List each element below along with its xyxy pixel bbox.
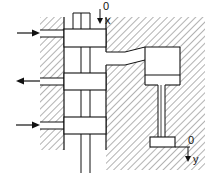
spool-origin-label: 0: [103, 0, 109, 12]
spool-axis-marker: 0 x: [97, 0, 111, 26]
rod-end-block: [150, 137, 175, 147]
piston-origin-label: 0: [188, 134, 194, 146]
spool-land-top: [64, 29, 106, 47]
spool: [64, 13, 106, 173]
flow-arrows: [16, 30, 40, 129]
left-housing: [40, 17, 64, 150]
spool-land-bottom: [64, 117, 106, 134]
piston-axis-label: y: [193, 153, 199, 165]
arrow-out-middle-icon: [16, 78, 40, 85]
arrow-down-icon: [97, 18, 103, 24]
spool-axis-label: x: [105, 14, 111, 26]
arrow-in-top-icon: [17, 30, 40, 37]
arrow-in-bottom-icon: [16, 122, 40, 129]
spool-land-middle: [64, 73, 106, 90]
valve-diagram: 0 x 0 y: [0, 0, 217, 174]
